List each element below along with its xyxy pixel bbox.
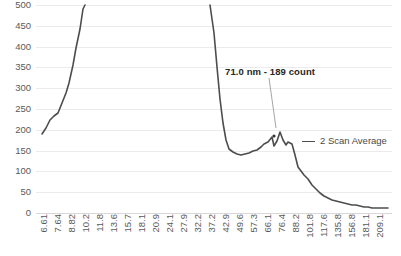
x-axis-tick: 76.4 xyxy=(277,214,287,233)
y-axis-tick: 150 xyxy=(15,146,31,156)
series-2-scan-average xyxy=(36,5,392,213)
x-axis-tick: 7.64 xyxy=(53,214,63,233)
x-axis-tick: 101.8 xyxy=(305,214,315,238)
x-axis-tick: 57.3 xyxy=(249,214,259,233)
y-axis-tick: 0 xyxy=(26,208,31,218)
y-axis-labels: 500 450 400 350 300 250 200 150 100 50 0 xyxy=(0,0,34,256)
y-axis-tick: 350 xyxy=(15,63,31,73)
x-axis-tick: 8.82 xyxy=(67,214,77,233)
x-axis-tick: 10.2 xyxy=(81,214,91,233)
y-axis-tick: 400 xyxy=(15,42,31,52)
x-axis-tick: 49.6 xyxy=(235,214,245,233)
annotation-label: 71.0 nm - 189 count xyxy=(225,66,315,77)
x-axis-tick: 135.8 xyxy=(333,214,343,238)
x-axis-tick: 27.9 xyxy=(179,214,189,233)
x-axis-labels: 6.61 7.64 8.82 10.2 11.8 13.6 15.7 18.1 … xyxy=(36,214,392,256)
x-axis-tick: 156.8 xyxy=(347,214,357,238)
x-axis-tick: 42.9 xyxy=(221,214,231,233)
legend-line-swatch xyxy=(302,141,315,142)
series-segment-right xyxy=(210,5,388,208)
x-axis-tick: 18.1 xyxy=(137,214,147,233)
y-axis-tick: 250 xyxy=(15,104,31,114)
x-axis-tick: 13.6 xyxy=(109,214,119,233)
plot-area xyxy=(36,5,392,213)
x-axis-tick: 37.2 xyxy=(207,214,217,233)
series-segment-left xyxy=(42,5,85,134)
chart-container: 500 450 400 350 300 250 200 150 100 50 0 xyxy=(0,0,401,256)
x-axis-tick: 209.1 xyxy=(375,214,385,238)
chart-legend: 2 Scan Average xyxy=(302,136,387,146)
y-axis-tick: 500 xyxy=(15,0,31,10)
y-axis-tick: 450 xyxy=(15,21,31,31)
x-axis-tick: 24.1 xyxy=(165,214,175,233)
x-axis-tick: 6.61 xyxy=(39,214,49,233)
x-axis-tick: 88.2 xyxy=(291,214,301,233)
y-axis-tick: 200 xyxy=(15,125,31,135)
x-axis-tick: 15.7 xyxy=(123,214,133,233)
x-axis-tick: 66.1 xyxy=(263,214,273,233)
annotation-marker xyxy=(272,134,275,137)
x-axis-tick: 117.6 xyxy=(319,214,329,237)
y-axis-tick: 100 xyxy=(15,167,31,177)
x-axis-tick: 20.9 xyxy=(151,214,161,233)
x-axis-tick: 32.2 xyxy=(193,214,203,233)
y-axis-tick: 50 xyxy=(20,187,31,197)
y-axis-tick: 300 xyxy=(15,83,31,93)
x-axis-tick: 11.8 xyxy=(95,214,105,232)
legend-item-label: 2 Scan Average xyxy=(320,136,387,146)
x-axis-tick: 181.1 xyxy=(361,214,371,238)
